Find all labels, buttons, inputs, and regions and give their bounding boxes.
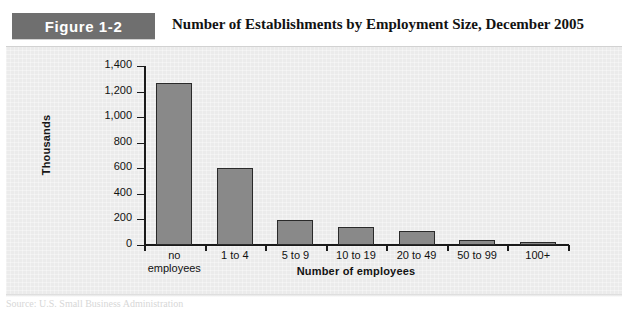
y-tick: 400 [137,194,144,195]
y-tick: 600 [137,168,144,169]
y-tick: 1,000 [137,117,144,118]
y-tick: 800 [137,143,144,144]
source-note-clipped: Source: U.S. Small Business Administrati… [6,300,336,312]
y-tick-label: 1,000 [92,109,132,121]
y-tick: 1,200 [137,92,144,93]
bar-series [144,66,568,245]
plot-wrapper: Thousands 02004006008001,0001,2001,400 n… [6,47,622,295]
x-tick-label: 1 to 4 [205,249,266,262]
x-tick-label: 50 to 99 [447,249,508,262]
y-tick: 200 [137,219,144,220]
figure-page: Figure 1-2 Number of Establishments by E… [0,0,637,312]
x-tick-label: 100+ [507,249,568,262]
bar [217,168,253,245]
plot-area: 02004006008001,0001,2001,400 no employee… [144,66,568,245]
y-axis-title: Thousands [40,75,52,215]
y-tick-label: 600 [92,160,132,172]
bar [156,83,192,245]
y-tick-label: 400 [92,186,132,198]
y-tick-label: 200 [92,211,132,223]
x-tick-label: 5 to 9 [265,249,326,262]
bar [338,227,374,245]
figure-number-badge: Figure 1-2 [12,13,155,39]
y-tick-label: 1,400 [92,58,132,70]
figure-header: Figure 1-2 Number of Establishments by E… [0,13,637,39]
figure-title: Number of Establishments by Employment S… [172,16,584,33]
bar [399,231,435,245]
y-tick-label: 800 [92,135,132,147]
chart-panel: Thousands 02004006008001,0001,2001,400 n… [6,46,622,295]
x-tick [568,245,570,251]
bar [277,220,313,245]
x-axis-title: Number of employees [144,265,568,277]
bar [520,242,556,245]
y-tick-label: 1,200 [92,84,132,96]
bar [459,240,495,245]
y-tick: 0 [137,245,144,246]
panel-bottom-shadow [6,294,622,297]
source-note-text: Source: U.S. Small Business Administrati… [6,300,183,309]
y-tick-label: 0 [92,237,132,249]
x-tick-label: 20 to 49 [386,249,447,262]
y-tick: 1,400 [137,66,144,67]
x-tick-label: 10 to 19 [326,249,387,262]
